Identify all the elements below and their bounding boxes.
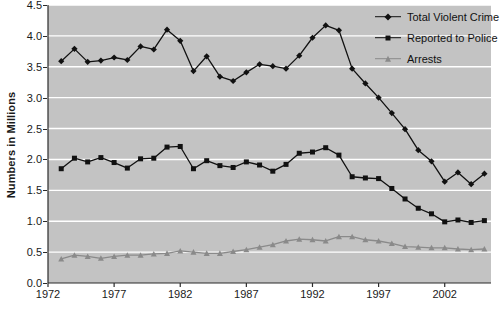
data-point (469, 220, 474, 225)
x-axis-tick-label: 1972 (36, 288, 60, 300)
data-point (323, 145, 328, 150)
data-point (297, 151, 302, 156)
data-point (389, 186, 394, 191)
legend-label: Total Violent Crime (407, 11, 499, 23)
x-axis-tick-label: 2002 (432, 288, 456, 300)
data-point (98, 155, 103, 160)
legend-item[interactable]: Arrests (375, 50, 499, 67)
x-axis-tick-label: 1977 (102, 288, 126, 300)
data-point (442, 219, 447, 224)
data-point (270, 169, 275, 174)
triangle-icon (385, 55, 391, 61)
legend-swatch (375, 53, 401, 65)
square-icon (386, 35, 391, 40)
data-point (482, 218, 487, 223)
legend-swatch (375, 11, 401, 23)
data-point (138, 156, 143, 161)
legend-item[interactable]: Total Violent Crime (375, 8, 499, 25)
legend-label: Reported to Police (407, 32, 498, 44)
data-point (217, 163, 222, 168)
data-point (310, 150, 315, 155)
data-point (85, 159, 90, 164)
x-axis-tick-label: 1992 (300, 288, 324, 300)
data-point (416, 206, 421, 211)
legend-item[interactable]: Reported to Police (375, 29, 499, 46)
data-point (125, 166, 130, 171)
data-point (204, 158, 209, 163)
data-point (257, 163, 262, 168)
data-point (350, 174, 355, 179)
data-point (403, 196, 408, 201)
data-point (191, 166, 196, 171)
data-point (376, 176, 381, 181)
x-axis-tick-labels: 1972197719821987199219972002 (0, 286, 503, 306)
x-axis-tick-label: 1982 (168, 288, 192, 300)
data-point (165, 145, 170, 150)
legend-swatch (375, 32, 401, 44)
diamond-icon (384, 13, 391, 20)
data-point (284, 162, 289, 167)
data-point (151, 156, 156, 161)
chart-figure: Numbers in Millions 0.00.51.01.52.02.53.… (0, 0, 503, 318)
data-point (363, 175, 368, 180)
x-axis-tick-label: 1997 (366, 288, 390, 300)
chart-legend: Total Violent CrimeReported to PoliceArr… (375, 8, 499, 71)
data-point (244, 159, 249, 164)
legend-label: Arrests (407, 53, 442, 65)
data-point (336, 153, 341, 158)
x-axis-tick-label: 1987 (234, 288, 258, 300)
data-point (429, 211, 434, 216)
data-point (72, 156, 77, 161)
data-point (455, 217, 460, 222)
data-point (112, 160, 117, 165)
data-point (231, 165, 236, 170)
data-point (59, 166, 64, 171)
data-point (178, 144, 183, 149)
